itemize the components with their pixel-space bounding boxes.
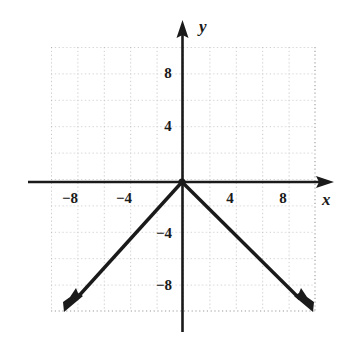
x-tick-label-4: 4 <box>218 191 242 206</box>
y-tick-label-8: 8 <box>154 66 182 81</box>
graph-figure: y x 8 4 −4 −8 −8 −4 4 8 <box>0 0 345 346</box>
y-axis-label: y <box>199 18 207 35</box>
x-tick-label-neg4: −4 <box>106 191 142 206</box>
y-tick-label-4: 4 <box>154 119 182 134</box>
y-tick-label-neg4: −4 <box>146 226 182 241</box>
x-tick-label-8: 8 <box>271 191 295 206</box>
coordinate-plane <box>0 0 345 346</box>
x-axis-label: x <box>322 191 331 208</box>
y-tick-label-neg8: −8 <box>146 278 182 293</box>
vertex-point <box>178 178 185 185</box>
x-tick-label-neg8: −8 <box>52 191 88 206</box>
